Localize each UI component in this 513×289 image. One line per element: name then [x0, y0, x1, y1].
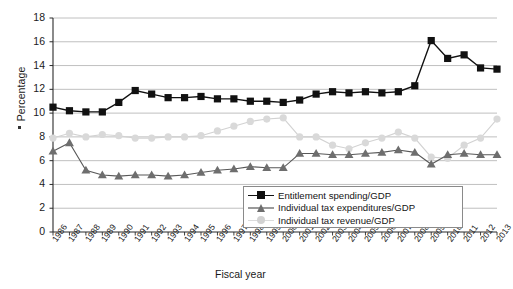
triangle-marker-icon	[248, 202, 274, 214]
data-point-marker	[115, 99, 122, 106]
data-point-marker	[49, 147, 58, 155]
data-point-marker	[461, 142, 468, 149]
data-point-marker	[493, 150, 502, 158]
data-point-marker	[296, 96, 303, 103]
data-point-marker	[66, 130, 73, 137]
data-point-marker	[329, 142, 336, 149]
data-point-marker	[296, 133, 303, 140]
legend-item: Individual tax revenue/GDP	[248, 214, 458, 227]
data-point-marker	[461, 51, 468, 58]
data-point-marker	[197, 93, 204, 100]
data-series-layer	[49, 37, 502, 179]
data-point-marker	[230, 123, 237, 130]
data-point-marker	[165, 133, 172, 140]
data-point-marker	[313, 90, 320, 97]
y-tick-label: 0	[21, 225, 45, 237]
circle-marker-icon	[248, 214, 274, 226]
data-point-marker	[99, 108, 106, 115]
data-point-marker	[411, 134, 418, 141]
legend-label: Entitlement spending/GDP	[274, 190, 391, 201]
y-tick-label: 16	[21, 35, 45, 47]
data-point-marker	[493, 115, 500, 122]
data-point-marker	[99, 131, 106, 138]
square-marker-icon	[248, 189, 274, 201]
data-point-marker	[428, 37, 435, 44]
data-point-marker	[81, 166, 90, 174]
data-point-marker	[378, 134, 385, 141]
data-point-marker	[395, 88, 402, 95]
data-point-marker	[312, 149, 321, 157]
data-point-marker	[280, 99, 287, 106]
data-point-marker	[115, 132, 122, 139]
data-point-marker	[411, 82, 418, 89]
data-point-marker	[362, 88, 369, 95]
legend-label: Individual tax revenue/GDP	[274, 215, 395, 226]
data-point-marker	[148, 90, 155, 97]
data-point-marker	[378, 89, 385, 96]
data-point-marker	[49, 104, 56, 111]
legend-item: Individual tax expenditures/GDP	[248, 202, 458, 215]
data-point-marker	[247, 118, 254, 125]
y-tick-label: 8	[21, 130, 45, 142]
y-tick-label: 14	[21, 59, 45, 71]
data-point-marker	[82, 108, 89, 115]
data-point-marker	[214, 127, 221, 134]
y-tick-label: 12	[21, 82, 45, 94]
data-point-marker	[147, 170, 156, 178]
data-point-marker	[82, 133, 89, 140]
gridlines	[53, 18, 497, 208]
data-point-marker	[230, 95, 237, 102]
data-point-marker	[65, 138, 74, 146]
data-point-marker	[247, 98, 254, 105]
data-point-marker	[313, 133, 320, 140]
data-point-marker	[263, 115, 270, 122]
data-point-marker	[165, 94, 172, 101]
y-tick-label: 2	[21, 201, 45, 213]
data-point-marker	[428, 154, 435, 161]
data-point-marker	[197, 132, 204, 139]
data-point-marker	[148, 134, 155, 141]
data-point-marker	[362, 139, 369, 146]
y-tick-label: 4	[21, 177, 45, 189]
data-point-marker	[295, 149, 304, 157]
data-point-marker	[444, 55, 451, 62]
data-point-marker	[49, 134, 56, 141]
data-point-marker	[460, 149, 469, 157]
data-point-marker	[263, 98, 270, 105]
y-tick-label: 10	[21, 106, 45, 118]
data-point-marker	[477, 134, 484, 141]
data-point-marker	[394, 146, 403, 154]
data-point-marker	[246, 162, 255, 170]
data-point-marker	[493, 66, 500, 73]
chart-legend: Entitlement spending/GDP Individual tax …	[243, 186, 463, 228]
data-point-marker	[66, 107, 73, 114]
data-point-marker	[329, 88, 336, 95]
data-point-marker	[477, 64, 484, 71]
y-tick-label: 18	[21, 11, 45, 23]
data-point-marker	[131, 170, 140, 178]
legend-item: Entitlement spending/GDP	[248, 189, 458, 202]
data-point-marker	[181, 133, 188, 140]
data-point-marker	[132, 87, 139, 94]
data-point-marker	[395, 129, 402, 136]
data-point-marker	[345, 89, 352, 96]
data-point-marker	[132, 134, 139, 141]
data-point-marker	[280, 114, 287, 121]
y-tick-label: 6	[21, 154, 45, 166]
data-point-marker	[214, 95, 221, 102]
data-point-marker	[181, 94, 188, 101]
legend-label: Individual tax expenditures/GDP	[274, 202, 415, 213]
